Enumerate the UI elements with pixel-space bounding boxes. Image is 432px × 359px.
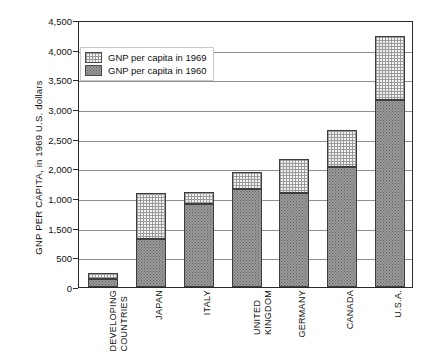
bar-group[interactable] xyxy=(279,20,309,287)
y-axis-tick-label: 2,500 xyxy=(28,134,72,145)
bar-segment-1969[interactable] xyxy=(327,130,357,167)
bar-segment-1960[interactable] xyxy=(184,204,214,287)
y-axis-tick-label: 4,500 xyxy=(28,16,72,27)
y-axis-tick-label: 3,000 xyxy=(28,105,72,116)
y-axis-tick-label: 3,500 xyxy=(28,75,72,86)
bar-segment-1969[interactable] xyxy=(88,273,118,279)
legend-item: GNP per capita in 1969 xyxy=(85,51,207,64)
bar-segment-1960[interactable] xyxy=(327,167,357,287)
x-axis-category-label: UNITED KINGDOM xyxy=(252,290,273,335)
x-axis-category-label: GERMANY xyxy=(297,290,308,338)
y-axis-tick-label: 4,000 xyxy=(28,45,72,56)
bar-segment-1960[interactable] xyxy=(88,279,118,287)
gnp-per-capita-bar-chart: GNP PER CAPITA, in 1969 U.S. dollars 4,5… xyxy=(0,0,432,359)
y-axis-tick-label: 500 xyxy=(28,253,72,264)
legend-swatch-icon xyxy=(85,65,102,76)
legend-item: GNP per capita in 1960 xyxy=(85,64,207,77)
y-axis-tick-label: 0 xyxy=(28,283,72,294)
bar-segment-1960[interactable] xyxy=(375,100,405,287)
legend-label: GNP per capita in 1969 xyxy=(108,52,207,63)
y-axis-tick-mark xyxy=(73,288,78,289)
y-axis-tick-label: 1,500 xyxy=(28,223,72,234)
bar-segment-1969[interactable] xyxy=(184,192,214,204)
bar-segment-1969[interactable] xyxy=(279,159,309,193)
bar-group[interactable] xyxy=(375,20,405,287)
bar-group[interactable] xyxy=(327,20,357,287)
y-axis-tick-label: 2,000 xyxy=(28,164,72,175)
bar-segment-1969[interactable] xyxy=(136,193,166,239)
x-axis-category-label: ITALY xyxy=(202,290,213,315)
x-axis-category-label: DEVELOPING COUNTRIES xyxy=(108,290,129,352)
bar-group[interactable] xyxy=(232,20,262,287)
legend-swatch-icon xyxy=(85,52,102,63)
legend-label: GNP per capita in 1960 xyxy=(108,65,207,76)
legend: GNP per capita in 1969GNP per capita in … xyxy=(80,47,214,81)
y-axis-tick-label: 1,000 xyxy=(28,194,72,205)
bar-segment-1969[interactable] xyxy=(375,36,405,99)
y-axis-tick-labels: 4,5004,0003,5003,0002,5002,0001,0001,500… xyxy=(28,0,72,359)
x-axis-category-label: U.S.A. xyxy=(393,290,404,318)
x-axis-category-label: JAPAN xyxy=(154,290,165,320)
x-axis-category-label: CANADA xyxy=(345,290,356,329)
bar-segment-1969[interactable] xyxy=(232,172,262,189)
bar-segment-1960[interactable] xyxy=(136,239,166,287)
x-axis-category-labels: DEVELOPING COUNTRIESJAPANITALYUNITED KIN… xyxy=(78,290,413,359)
bar-segment-1960[interactable] xyxy=(232,189,262,287)
bar-segment-1960[interactable] xyxy=(279,193,309,287)
